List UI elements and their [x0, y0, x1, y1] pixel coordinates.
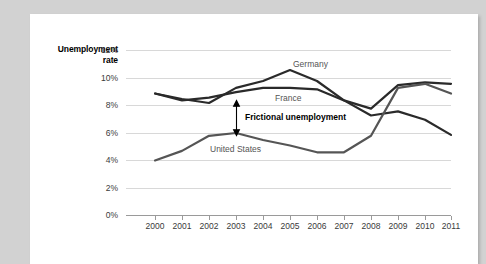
x-tick-label-2009: 2009 — [385, 222, 411, 231]
series-line-united-states — [155, 84, 451, 161]
x-tick-label-2011: 2011 — [438, 222, 464, 231]
x-tick-label-2008: 2008 — [358, 222, 384, 231]
x-tick-label-2010: 2010 — [412, 222, 438, 231]
x-tick-label-2007: 2007 — [331, 222, 357, 231]
y-tick-label-2: 2% — [92, 184, 118, 193]
chart-card: Unemployment rate — [30, 14, 478, 264]
x-axis-ticks — [155, 216, 451, 220]
series-line-germany — [155, 70, 451, 135]
y-tick-label-12: 12% — [92, 46, 118, 55]
y-tick-label-0: 0% — [92, 211, 118, 220]
annotation-frictional-unemployment: Frictional unemployment — [245, 113, 346, 122]
unemployment-rate-line-chart: Unemployment rate — [30, 14, 478, 264]
x-tick-label-2005: 2005 — [277, 222, 303, 231]
x-tick-label-2006: 2006 — [304, 222, 330, 231]
y-tick-label-10: 10% — [92, 74, 118, 83]
series-label-france: France — [275, 94, 301, 103]
series-label-germany: Germany — [293, 60, 328, 69]
frictional-unemployment-arrow — [234, 101, 240, 136]
y-tick-label-8: 8% — [92, 101, 118, 110]
x-tick-label-2004: 2004 — [250, 222, 276, 231]
x-tick-label-2003: 2003 — [223, 222, 249, 231]
x-tick-label-2001: 2001 — [169, 222, 195, 231]
x-tick-label-2002: 2002 — [196, 222, 222, 231]
y-tick-label-6: 6% — [92, 129, 118, 138]
x-tick-label-2000: 2000 — [142, 222, 168, 231]
series-label-united-states: United States — [210, 145, 261, 154]
y-tick-label-4: 4% — [92, 156, 118, 165]
